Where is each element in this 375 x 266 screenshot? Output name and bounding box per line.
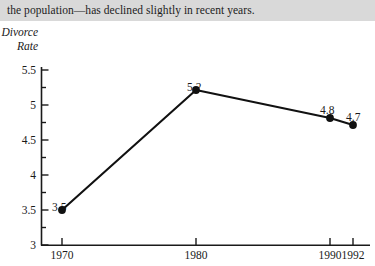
data-point-1980 <box>192 86 200 94</box>
line-chart-figure: Divorce Rate 5.5 5 4.5 4 3.5 3 1970 1980… <box>0 21 375 266</box>
divorce-rate-series-line <box>62 90 353 210</box>
divorce-rate-series-markers <box>58 86 357 214</box>
x-axis-ticks <box>62 238 353 245</box>
data-point-1990 <box>326 114 334 122</box>
data-point-1970 <box>58 206 66 214</box>
data-point-1992 <box>349 121 357 129</box>
header-band: the population—has declined slightly in … <box>0 0 375 21</box>
body-text: the population—has declined slightly in … <box>7 1 255 20</box>
chart-plot-area <box>0 21 375 266</box>
